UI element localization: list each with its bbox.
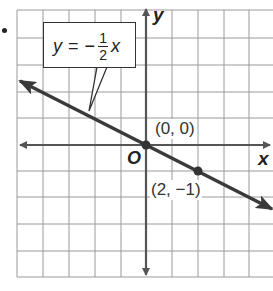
point-origin: [142, 141, 151, 150]
x-axis-label: x: [258, 148, 269, 170]
eq-lhs: y: [53, 36, 62, 57]
eq-numerator: 1: [99, 31, 107, 45]
bullet-dot: [2, 28, 7, 33]
point-label-origin: (0, 0): [154, 119, 196, 139]
point-label-2-neg1: (2, −1): [150, 180, 202, 200]
coordinate-graph: [0, 0, 273, 291]
callout-pointer: [89, 67, 107, 111]
line-y-neg-half-x: [20, 81, 146, 145]
equation-callout: y = − 1 2 x: [43, 22, 136, 68]
eq-denominator: 2: [99, 48, 107, 62]
eq-equals: =: [68, 36, 79, 57]
equation: y = − 1 2 x: [53, 31, 120, 62]
eq-variable: x: [111, 36, 120, 57]
y-axis-label: y: [153, 4, 164, 26]
eq-sign: −: [85, 36, 96, 57]
origin-label: O: [127, 148, 141, 169]
point-2-neg1: [194, 167, 203, 176]
eq-fraction: 1 2: [98, 31, 108, 62]
